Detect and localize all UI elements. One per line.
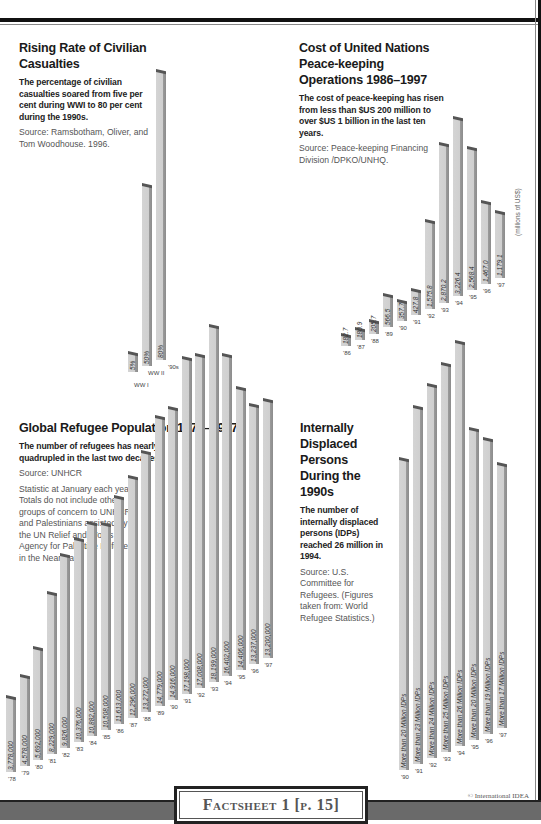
category-label: '97 [497, 282, 505, 288]
bar-value-label: 12,296,000 [129, 683, 136, 716]
bar-value-label: 5,692,000 [34, 729, 41, 758]
bar-refugees [6, 698, 16, 772]
bar-value-label: 427.8 [412, 297, 419, 313]
category-label: '87 [357, 344, 365, 350]
category-label: '96 [483, 288, 491, 294]
category-label: '89 [157, 710, 165, 716]
category-label: '92 [197, 692, 205, 698]
bar-value-label: 16,402,000 [223, 641, 230, 674]
category-label: WW I [134, 382, 149, 388]
bar-value-label: 80% [157, 345, 164, 358]
chart-title: Rising Rate of Civilian Casualties [19, 40, 159, 72]
bar-value-label: 13,272,000 [142, 677, 149, 710]
bar-refugees [182, 359, 192, 694]
bar-value-label: More than 25 Million IDPs [442, 676, 449, 750]
idp-panel: Internally Displaced Persons During the … [300, 420, 390, 628]
bar-value-label: 13,200,000 [264, 623, 271, 656]
category-label: '96 [485, 738, 493, 744]
bar-value-label: 182.7 [342, 328, 349, 344]
bar-value-label: 14,916,000 [169, 665, 176, 698]
category-label: '93 [211, 686, 219, 692]
category-label: '89 [385, 331, 393, 337]
bar-value-label: 1,575.8 [426, 285, 433, 307]
civilian-casualties-panel: Rising Rate of Civilian Casualties The p… [19, 40, 159, 154]
bar-value-label: 9,826,000 [61, 717, 68, 746]
category-label: '95 [469, 294, 477, 300]
category-label: '94 [224, 680, 232, 686]
bar-idps [413, 408, 423, 765]
bar-value-label: More than 24 Million IDPs [428, 682, 435, 756]
bar-value-label: 50% [143, 351, 150, 364]
bar-refugees [47, 594, 57, 754]
chart-notes: Statistic at January each year. Totals d… [19, 484, 137, 565]
category-label: '80 [35, 764, 43, 770]
bar-civilian [142, 186, 152, 366]
category-label: '86 [116, 728, 124, 734]
bar-value-label: More than 26 Million IDPs [456, 670, 463, 744]
bar-refugees [60, 556, 70, 748]
bar-value-label: 17,198,000 [183, 659, 190, 692]
category-label: '96 [251, 668, 259, 674]
bar-refugees [195, 356, 205, 688]
factsheet-page-label: Factsheet 1 [p. 15] [174, 786, 368, 824]
refugee-population-panel: Global Refugee Population 1978–1997 The … [19, 420, 179, 568]
chart-subtitle: The cost of peace-keeping has risen from… [299, 93, 449, 139]
top-rule [0, 18, 541, 22]
unit-label: (millions of US$) [514, 188, 521, 236]
bar-idps [483, 440, 493, 735]
bar-peacekeeping [495, 213, 505, 278]
bar-value-label: 10,508,000 [102, 695, 109, 728]
bar-value-label: 8,229,000 [48, 723, 55, 752]
bar-value-label: 2,568.4 [468, 267, 475, 289]
bar-idps [427, 386, 437, 758]
bar-value-label: 11,613,000 [115, 690, 122, 722]
category-label: '81 [49, 758, 57, 764]
bar-refugees [263, 401, 273, 658]
category-label: '91 [184, 698, 192, 704]
bar-peacekeeping [467, 149, 477, 290]
bar-value-label: More than 19 Million IDPs [484, 658, 491, 732]
category-label: '94 [455, 300, 463, 306]
right-rule-thin [535, 0, 536, 800]
bar-value-label: 3,226.4 [454, 273, 461, 295]
category-label: '87 [130, 722, 138, 728]
bar-peacekeeping [397, 302, 407, 322]
category-label: '92 [427, 313, 435, 319]
bar-value-label: More than 17 Million IDPs [498, 652, 505, 726]
bar-peacekeeping [425, 222, 435, 309]
bar-value-label: 1,467.0 [482, 260, 489, 282]
category-label: WW II [148, 370, 164, 376]
category-label: '85 [103, 734, 111, 740]
bar-value-label: 4,578,000 [21, 735, 28, 764]
category-label: '90 [401, 774, 409, 780]
bar-refugees [222, 356, 232, 676]
category-label: '95 [238, 674, 246, 680]
bar-value-label: 18,199,000 [210, 647, 217, 680]
category-label: '83 [76, 746, 84, 752]
bar-value-label: 17,008,000 [196, 653, 203, 686]
bar-peacekeeping [355, 330, 365, 340]
category-label: '97 [499, 732, 507, 738]
chart-source: Source: Ramsbotham, Oliver, and Tom Wood… [19, 127, 159, 150]
bar-refugees [74, 540, 84, 742]
chart-title: Cost of United Nations Peace-keeping Ope… [299, 40, 449, 88]
bar-value-label: More than 20 Million IDPs [470, 664, 477, 738]
chart-subtitle: The percentage of civilian casualties so… [19, 77, 159, 123]
bar-idps [469, 430, 479, 740]
bar-peacekeeping [341, 336, 351, 346]
category-label: '86 [343, 350, 351, 356]
bar-value-label: More than 20 Million IDPs [400, 694, 407, 768]
top-rule-thin [0, 24, 541, 25]
bar-peacekeeping [481, 203, 491, 284]
bar-peacekeeping [369, 322, 379, 333]
category-label: '93 [443, 756, 451, 762]
category-label: '90s [168, 364, 179, 370]
copyright-notice: © International IDEA [468, 792, 529, 800]
bar-value-label: 1,179.1 [496, 254, 503, 276]
category-label: '92 [429, 762, 437, 768]
bar-peacekeeping [453, 119, 463, 296]
chart-subtitle: The number of internally displaced perso… [300, 505, 390, 563]
chart-title: Global Refugee Population 1978–1997 [19, 420, 179, 436]
category-label: '91 [415, 768, 423, 774]
bar-value-label: 3,778,000 [7, 741, 14, 770]
